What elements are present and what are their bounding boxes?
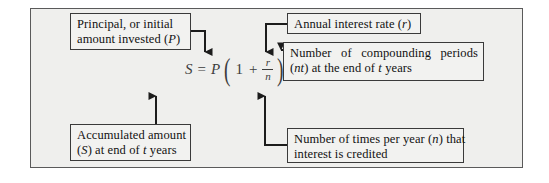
callout-accumulated-amount: Accumulated amount (S) at end of t years xyxy=(70,124,191,161)
callout-periods-line2: (nt) at the end of t years xyxy=(290,61,478,76)
callout-accumulated-line1: Accumulated amount xyxy=(77,128,185,143)
callout-periods-line1: Number of compounding periods xyxy=(290,46,478,61)
callout-times-line2: interest is credited xyxy=(294,147,458,162)
formula-lhs: S xyxy=(183,61,195,78)
formula-expression: S = P ( 1 + r n ) nt xyxy=(183,57,293,82)
formula-fraction: r n xyxy=(260,57,275,82)
callout-times-line1: Number of times per year (n) that xyxy=(294,132,458,147)
formula-rate-symbol: r xyxy=(266,57,270,68)
formula-principal-symbol: P xyxy=(209,61,222,78)
callout-times-per-year: Number of times per year (n) that intere… xyxy=(287,128,464,163)
callout-annual-interest-rate: Annual interest rate (r) xyxy=(287,13,421,34)
callout-principal-line2: amount invested (P) xyxy=(77,32,185,47)
callout-rate-line1: Annual interest rate (r) xyxy=(294,17,415,32)
formula-one: 1 xyxy=(232,61,246,78)
formula-n-symbol: n xyxy=(265,71,271,82)
callout-accumulated-line2: (S) at end of t years xyxy=(77,143,185,158)
formula-equals: = xyxy=(195,61,209,78)
callout-principal-line1: Principal, or initial xyxy=(77,17,185,32)
formula-plus: + xyxy=(246,61,260,78)
compound-interest-formula-figure: S = P ( 1 + r n ) nt Principal, or initi… xyxy=(0,0,549,183)
callout-principal: Principal, or initial amount invested (P… xyxy=(70,13,191,50)
callout-compounding-periods: Number of compounding periods (nt) at th… xyxy=(283,42,484,81)
